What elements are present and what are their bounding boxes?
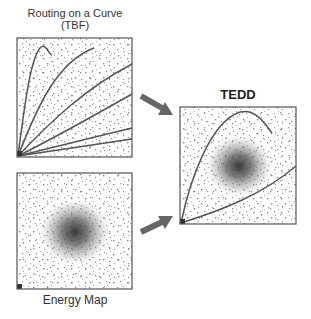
energy-map-panel [17,173,132,289]
tedd-panel [180,107,296,224]
arrow-tbf-to-tedd [141,96,173,115]
tbf-panel [17,38,132,157]
diagram-canvas [0,0,311,319]
arrow-energy-to-tedd [141,216,173,232]
